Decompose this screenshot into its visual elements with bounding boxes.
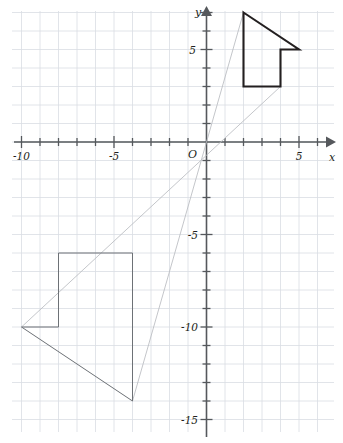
y-axis-label: y [194,6,202,19]
x-axis-arrowhead [326,137,336,148]
x-axis: -10 -5 5 x [13,136,336,164]
origin-label: O [188,148,197,161]
grid-lines [12,11,334,432]
x-axis-label: x [329,151,336,164]
x-tick-label-neg10: -10 [13,150,30,162]
y-axis-arrowhead [201,6,212,16]
x-tick-label-neg5: -5 [109,150,120,162]
y-axis: 5 -5 -10 -15 y [181,6,212,437]
y-tick-label-neg10: -10 [181,321,198,333]
y-tick-label-neg5: -5 [188,229,199,241]
x-tick-label-5: 5 [296,150,303,162]
y-tick-label-neg15: -15 [181,414,198,426]
graph-canvas: -10 -5 5 x [0,0,343,443]
y-tick-label-5: 5 [189,44,196,56]
coordinate-grid-figure: -10 -5 5 x [0,0,343,443]
